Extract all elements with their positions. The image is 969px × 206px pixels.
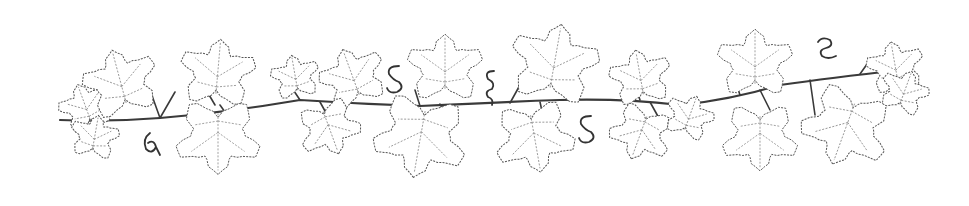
- leaf-icon: [176, 104, 260, 175]
- tendril-icon: [387, 66, 402, 93]
- leaf-icon: [605, 45, 675, 107]
- leaf-icon: [178, 36, 258, 106]
- leaf-icon: [408, 34, 483, 97]
- leaf-icon: [660, 88, 720, 143]
- tendril-icon: [818, 38, 836, 58]
- tendril-icon: [145, 133, 160, 155]
- leaf-icon: [505, 17, 605, 106]
- leaf-icon: [718, 29, 793, 92]
- leaf-icon: [791, 79, 900, 179]
- leaf-icon: [490, 99, 580, 179]
- vine-leaves: [53, 17, 935, 186]
- leaf-icon: [723, 107, 798, 171]
- leaf-icon: [292, 94, 368, 164]
- tendril-icon: [487, 71, 494, 105]
- vine-illustration: [0, 0, 969, 206]
- tendril-icon: [579, 116, 594, 143]
- leaf-icon: [602, 99, 678, 169]
